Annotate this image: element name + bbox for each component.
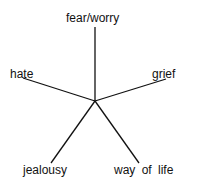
spoke-right (95, 79, 166, 101)
spoke-bottom-right (95, 101, 139, 163)
label-hate: hate (10, 68, 33, 80)
label-way-of-life: way of life (114, 164, 173, 176)
spoke-diagram: fear/worry hate grief jealousy way of li… (0, 0, 197, 190)
label-jealousy: jealousy (23, 164, 67, 176)
spoke-lines (0, 0, 197, 190)
spoke-left (23, 78, 95, 101)
label-grief: grief (152, 68, 175, 80)
label-fear-worry: fear/worry (66, 12, 119, 24)
spoke-bottom-left (51, 101, 95, 163)
